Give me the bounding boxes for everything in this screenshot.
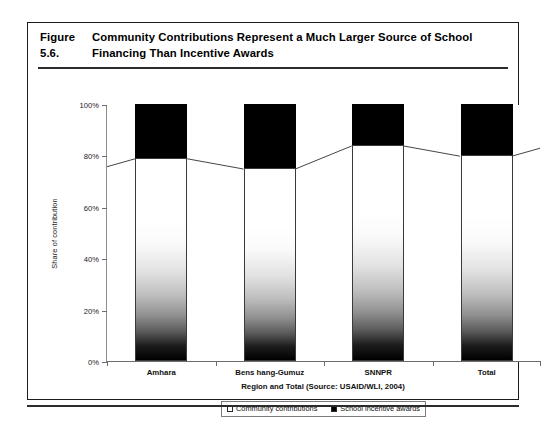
series-connector-line: [187, 159, 243, 169]
caption-divider: [38, 67, 508, 69]
figure-title-line-1: Community Contributions Represent a Much…: [92, 31, 473, 43]
y-axis-tick-label: 20%: [84, 306, 99, 315]
series-connector-lines: [107, 105, 540, 361]
chart: Share of contribution 0%20%40%60%80%100%…: [28, 71, 518, 399]
series-connector-line: [404, 146, 460, 156]
figure-container: Figure 5.6.Community Contributions Repre…: [27, 22, 519, 400]
plot-area: 0%20%40%60%80%100% AmharaBens hang-Gumuz…: [106, 105, 540, 362]
x-axis-tick-label: Bens hang-Gumuz: [215, 368, 325, 377]
series-connector-line: [295, 146, 351, 169]
x-axis-tick: [433, 361, 434, 366]
x-axis-title: Region and Total (Source: USAID/WLI, 200…: [106, 382, 540, 391]
figure-title-line-2: Financing Than Incentive Awards: [92, 47, 274, 59]
figure-number: Figure 5.6.: [40, 30, 92, 61]
series-connector-line: [107, 159, 135, 167]
y-axis-tick-label: 60%: [84, 203, 99, 212]
x-axis-tick-label: SNNPR: [323, 368, 433, 377]
x-axis-tick: [324, 361, 325, 366]
x-axis-tick-label: Total: [432, 368, 542, 377]
x-axis-tick: [216, 361, 217, 366]
x-axis-tick-label: Amhara: [106, 368, 216, 377]
y-axis-tick-label: 100%: [80, 101, 99, 110]
figure-caption: Figure 5.6.Community Contributions Repre…: [40, 30, 506, 61]
figure-bottom-divider: [27, 405, 519, 407]
y-axis-title: Share of contribution: [50, 105, 62, 362]
x-axis-tick: [107, 361, 108, 366]
series-connector-line: [512, 148, 540, 156]
chart-legend: Community contributionsSchool incentive …: [221, 401, 426, 417]
x-axis-tick: [540, 361, 541, 366]
y-axis-tick-label: 40%: [84, 255, 99, 264]
y-axis-tick-label: 80%: [84, 152, 99, 161]
y-axis-tick-label: 0%: [88, 358, 99, 367]
